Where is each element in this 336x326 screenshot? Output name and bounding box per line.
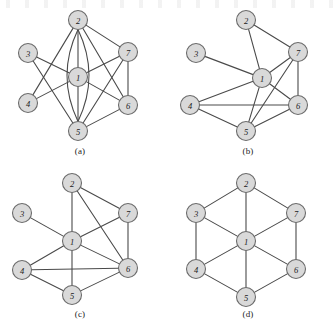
graph-panel-b: 2371465 (168, 0, 336, 163)
graph-node: 1 (253, 69, 272, 88)
graph-node: 5 (237, 288, 256, 307)
graph-node: 7 (289, 43, 308, 62)
graph-node: 6 (119, 259, 138, 278)
graph-node: 5 (69, 122, 88, 141)
graph-node: 7 (119, 204, 138, 223)
graph-edge (254, 218, 287, 237)
graph-node: 2 (69, 11, 88, 30)
graph-node: 1 (237, 232, 256, 251)
node-label: 1 (244, 237, 248, 247)
graph-edge (86, 56, 119, 73)
graph-node: 3 (187, 204, 206, 223)
node-label: 1 (76, 73, 80, 83)
node-label: 3 (193, 49, 198, 59)
graph-edge (31, 268, 118, 270)
graph-edge (204, 274, 237, 293)
caption-b: (b) (228, 146, 268, 156)
graph-edge (86, 25, 120, 47)
node-label: 5 (70, 291, 74, 301)
graph-node: 7 (287, 204, 306, 223)
graph-node: 3 (19, 44, 38, 63)
node-label: 1 (260, 74, 264, 84)
graph-node: 3 (13, 204, 32, 223)
graph-node: 4 (187, 260, 206, 279)
graph-node: 2 (63, 174, 82, 193)
graph-node: 6 (119, 96, 138, 115)
graph-edge (77, 191, 123, 260)
graph-edge (36, 81, 69, 98)
graph-node: 2 (237, 174, 256, 193)
graph-edge (81, 272, 120, 291)
graph-edge (37, 57, 70, 73)
graph-node: 6 (289, 96, 308, 115)
edge-layer (199, 25, 298, 127)
node-layer: 2371465 (13, 174, 138, 305)
graph-c-canvas: 2371465 (0, 163, 168, 326)
caption-a: (a) (60, 146, 100, 156)
graph-edge (204, 246, 237, 265)
node-label: 3 (25, 49, 30, 59)
graph-edge (205, 56, 253, 74)
node-label: 5 (76, 127, 80, 137)
graph-d-canvas: 2371465 (168, 163, 336, 326)
node-layer: 2371465 (19, 11, 138, 141)
graph-panel-d: 2371465 (168, 163, 336, 326)
graph-node: 5 (63, 286, 82, 305)
graph-edge (30, 274, 63, 291)
graph-figure: 2371465 (a) 2371465 (b) 2371465 (c) 2371… (0, 0, 336, 326)
graph-panel-c: 2371465 (0, 163, 168, 326)
caption-d: (d) (228, 309, 268, 319)
graph-node: 4 (19, 94, 38, 113)
graph-edge (81, 245, 120, 264)
graph-node: 5 (237, 122, 256, 141)
graph-node: 4 (181, 96, 200, 115)
graph-edge (254, 274, 287, 293)
node-label: 3 (19, 209, 24, 219)
graph-edge (254, 109, 289, 127)
graph-edge (254, 188, 288, 208)
graph-node: 7 (119, 43, 138, 62)
graph-edge (204, 188, 238, 208)
graph-b-canvas: 2371465 (168, 0, 336, 163)
graph-node: 3 (187, 44, 206, 63)
node-label: 3 (193, 209, 198, 219)
graph-node: 4 (13, 261, 32, 280)
graph-panel-a: 2371465 (0, 0, 168, 163)
node-layer: 2371465 (181, 11, 308, 141)
graph-node: 1 (63, 232, 82, 251)
graph-node: 1 (69, 68, 88, 87)
graph-edge (30, 246, 64, 265)
graph-edge (199, 81, 253, 101)
graph-edge (270, 84, 291, 100)
graph-edge (270, 58, 291, 73)
graph-edge (30, 218, 63, 237)
node-label: 1 (70, 237, 74, 247)
graph-edge (204, 218, 237, 237)
graph-edge (249, 29, 260, 69)
caption-c: (c) (60, 309, 100, 319)
graph-edge (199, 109, 238, 127)
node-label: 5 (244, 293, 248, 303)
graph-edge (86, 109, 119, 126)
graph-edge (254, 246, 287, 265)
node-label: 5 (244, 127, 248, 137)
graph-a-canvas: 2371465 (0, 0, 168, 163)
graph-edge (254, 25, 290, 47)
graph-node: 2 (237, 11, 256, 30)
graph-edge (80, 217, 119, 237)
graph-node: 6 (287, 260, 306, 279)
